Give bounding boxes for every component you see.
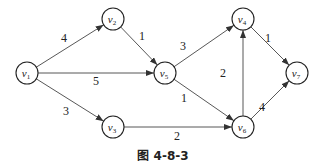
edge-weight-label: 2 — [220, 66, 226, 80]
edge-weight-label: 2 — [174, 129, 180, 143]
node-v1: v1 — [16, 62, 38, 84]
edge-weight-label: 4 — [259, 100, 265, 114]
node-v2: v2 — [102, 8, 124, 30]
node-v7: v7 — [286, 62, 308, 84]
edge-weight-label: 4 — [61, 31, 67, 45]
edge-weight-label: 1 — [181, 91, 187, 105]
node-v5: v5 — [154, 62, 176, 84]
node-v6: v6 — [232, 116, 254, 138]
edge-weight-label: 3 — [180, 39, 186, 53]
edge-weight-label: 1 — [139, 29, 145, 43]
edge-weight-label: 3 — [63, 104, 69, 118]
node-v3: v3 — [102, 116, 124, 138]
edge-v1-v2 — [36, 25, 103, 67]
graph-diagram: 4531312214 v1v2v3v4v5v6v7 — [0, 0, 326, 166]
edge-v6-v7 — [251, 81, 289, 119]
node-v4: v4 — [232, 8, 254, 30]
figure-caption: 图 4-8-3 — [0, 146, 326, 163]
edge-weight-label: 1 — [265, 31, 271, 45]
edge-weight-label: 5 — [93, 74, 99, 88]
